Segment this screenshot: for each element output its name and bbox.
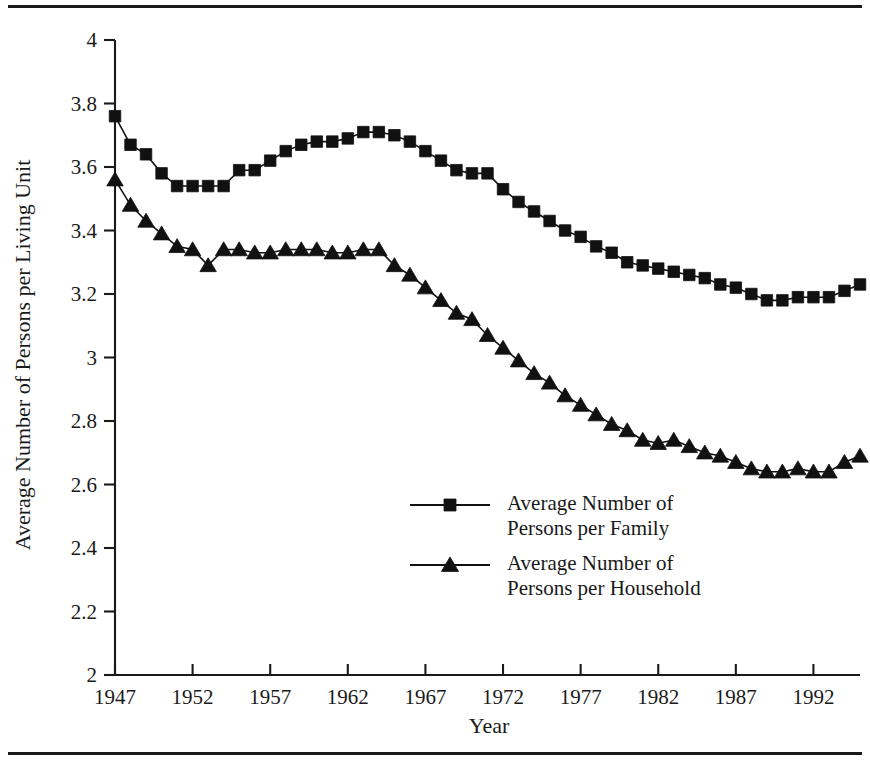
legend-label-line1-0: Average Number of bbox=[507, 491, 673, 515]
triangle-marker bbox=[588, 407, 605, 421]
y-tick-label: 3 bbox=[87, 346, 98, 370]
square-marker bbox=[482, 168, 494, 180]
square-marker bbox=[684, 269, 696, 281]
x-tick-label: 1962 bbox=[327, 685, 369, 709]
y-tick-label: 2.2 bbox=[71, 600, 97, 624]
square-marker bbox=[575, 231, 587, 243]
square-marker bbox=[171, 180, 183, 192]
y-tick-label: 2.4 bbox=[71, 536, 98, 560]
triangle-marker bbox=[572, 397, 589, 411]
square-marker bbox=[249, 164, 261, 176]
square-marker bbox=[559, 225, 571, 237]
y-tick-label: 4 bbox=[87, 28, 98, 52]
line-chart: 22.22.42.62.833.23.43.63.84 194719521957… bbox=[0, 0, 870, 773]
square-marker bbox=[637, 260, 649, 272]
square-marker bbox=[140, 149, 152, 161]
triangle-marker bbox=[122, 197, 138, 211]
square-marker bbox=[823, 291, 835, 303]
x-tick-label: 1967 bbox=[404, 685, 446, 709]
square-marker bbox=[715, 279, 727, 291]
square-marker bbox=[792, 291, 804, 303]
x-tick-label: 1957 bbox=[249, 685, 291, 709]
triangle-marker bbox=[836, 455, 853, 469]
legend-label-line2-1: Persons per Household bbox=[507, 576, 701, 600]
series-household bbox=[107, 172, 869, 478]
square-marker bbox=[466, 168, 478, 180]
square-marker bbox=[590, 241, 602, 253]
x-tick-label: 1947 bbox=[94, 685, 136, 709]
x-axis-ticks: 1947195219571962196719721977198219871992 bbox=[94, 664, 834, 709]
square-marker bbox=[761, 295, 773, 307]
square-marker bbox=[218, 180, 230, 192]
x-tick-label: 1977 bbox=[560, 685, 602, 709]
triangle-marker bbox=[107, 172, 124, 186]
square-marker bbox=[730, 282, 742, 294]
x-tick-label: 1987 bbox=[715, 685, 757, 709]
square-marker bbox=[746, 288, 758, 300]
y-tick-label: 2 bbox=[87, 663, 98, 687]
triangle-marker bbox=[666, 432, 683, 446]
square-marker bbox=[156, 168, 168, 180]
square-marker bbox=[606, 247, 618, 259]
triangle-marker bbox=[697, 445, 714, 459]
square-marker bbox=[264, 155, 276, 167]
square-marker bbox=[311, 136, 323, 148]
square-marker bbox=[777, 295, 789, 307]
square-marker bbox=[420, 145, 432, 157]
x-tick-label: 1992 bbox=[792, 685, 834, 709]
square-marker bbox=[451, 164, 463, 176]
x-tick-label: 1972 bbox=[482, 685, 524, 709]
y-tick-label: 3.8 bbox=[71, 92, 97, 116]
square-marker bbox=[125, 139, 136, 151]
x-tick-label: 1982 bbox=[637, 685, 679, 709]
triangle-marker bbox=[790, 461, 807, 475]
square-marker bbox=[202, 180, 214, 192]
square-marker bbox=[808, 291, 820, 303]
square-marker bbox=[444, 499, 456, 511]
triangle-marker bbox=[681, 439, 698, 453]
square-marker bbox=[233, 164, 245, 176]
triangle-marker bbox=[728, 455, 745, 469]
y-tick-label: 3.4 bbox=[71, 219, 98, 243]
x-axis-title: Year bbox=[469, 713, 510, 738]
square-marker bbox=[404, 136, 416, 148]
legend-entry-0: Average Number ofPersons per Family bbox=[410, 491, 673, 540]
square-marker bbox=[652, 263, 664, 275]
square-marker bbox=[435, 155, 447, 167]
square-marker bbox=[187, 180, 199, 192]
legend-label-line2-0: Persons per Family bbox=[507, 516, 670, 540]
axes bbox=[115, 40, 860, 675]
square-marker bbox=[513, 196, 525, 208]
figure-container: 22.22.42.62.833.23.43.63.84 194719521957… bbox=[0, 0, 870, 773]
y-tick-label: 3.2 bbox=[71, 282, 97, 306]
triangle-marker bbox=[541, 375, 558, 389]
triangle-marker bbox=[464, 312, 481, 326]
square-marker bbox=[342, 133, 354, 145]
triangle-marker bbox=[402, 267, 419, 281]
square-marker bbox=[668, 266, 680, 278]
legend-label-line1-1: Average Number of bbox=[507, 551, 673, 575]
square-marker bbox=[854, 279, 866, 291]
square-marker bbox=[296, 139, 308, 151]
series-line-0 bbox=[115, 116, 860, 300]
y-axis-title: Average Number of Persons per Living Uni… bbox=[10, 160, 35, 551]
square-marker bbox=[839, 285, 851, 297]
series-line-1 bbox=[115, 180, 860, 472]
square-marker bbox=[358, 126, 370, 138]
x-tick-label: 1952 bbox=[172, 685, 214, 709]
y-axis-ticks: 22.22.42.62.833.23.43.63.84 bbox=[71, 28, 115, 687]
triangle-marker bbox=[619, 423, 636, 437]
y-tick-label: 2.6 bbox=[71, 473, 97, 497]
square-marker bbox=[280, 145, 292, 157]
chart-legend: Average Number ofPersons per FamilyAvera… bbox=[410, 491, 701, 600]
legend-entry-1: Average Number ofPersons per Household bbox=[410, 551, 701, 600]
y-tick-label: 3.6 bbox=[71, 155, 97, 179]
square-marker bbox=[528, 206, 540, 218]
data-series bbox=[107, 110, 869, 478]
square-marker bbox=[373, 126, 385, 138]
square-marker bbox=[699, 272, 711, 284]
square-marker bbox=[544, 215, 556, 227]
triangle-marker bbox=[743, 461, 760, 475]
square-marker bbox=[109, 110, 121, 122]
triangle-marker bbox=[634, 432, 651, 446]
